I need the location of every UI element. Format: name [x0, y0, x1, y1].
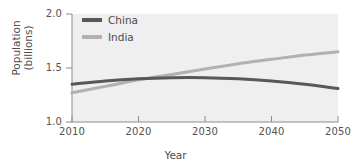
- x-tick-label-2030: 2030: [185, 126, 225, 137]
- legend-swatch-china: [82, 18, 102, 22]
- y-axis-title-line-2: (billions): [22, 20, 34, 75]
- legend-item-china: China: [82, 14, 138, 26]
- x-tick-label-2010: 2010: [52, 126, 92, 137]
- y-axis-title-line-1: Population: [10, 20, 22, 75]
- population-line-chart: 2.0 1.5 1.0 2010 2020 2030 2040 2050 Pop…: [0, 0, 351, 168]
- y-axis-title: Population (billions): [2, 2, 42, 94]
- y-tick-marks: [66, 14, 72, 122]
- legend-label-china: China: [108, 14, 138, 26]
- chart-legend: China India: [82, 14, 138, 43]
- x-tick-label-2040: 2040: [252, 126, 292, 137]
- legend-item-india: India: [82, 31, 138, 43]
- x-axis-title: Year: [0, 149, 351, 161]
- x-tick-label-2050: 2050: [318, 126, 351, 137]
- legend-swatch-india: [82, 35, 102, 39]
- legend-label-india: India: [108, 31, 134, 43]
- x-tick-label-2020: 2020: [119, 126, 159, 137]
- plot-canvas: [0, 0, 351, 168]
